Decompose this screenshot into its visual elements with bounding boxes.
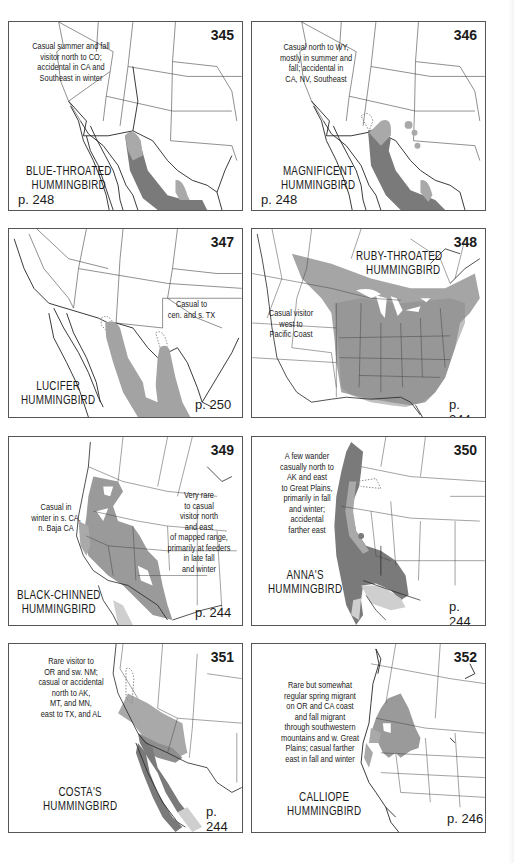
page-reference[interactable]: p. 248 [261, 192, 297, 207]
species-number: 346 [454, 27, 477, 43]
species-number: 348 [454, 234, 477, 250]
range-note: Casual summer and fall visitor north to … [30, 41, 112, 83]
map-panel-ruby-throated: Casual visitor west to Pacific Coast 348… [251, 228, 486, 418]
range-note: Casual north to WY, mostly in summer and… [275, 42, 357, 84]
map-panel-annas: A few wander casually north to AK and ea… [251, 436, 486, 626]
page-edge [508, 0, 514, 863]
species-number: 345 [211, 27, 234, 43]
page-reference[interactable]: p. 250 [195, 397, 231, 412]
range-note-east: Very rare to casual visitor north and ea… [162, 490, 236, 574]
map-panel-blue-throated: Casual summer and fall visitor north to … [8, 21, 243, 211]
page-reference[interactable]: p. 244 [206, 804, 242, 833]
map-panel-calliope: Rare but somewhat regular spring migrant… [251, 643, 486, 833]
species-name: BLUE-THROATED HUMMINGBIRD [26, 164, 112, 192]
species-number: 352 [454, 649, 477, 665]
range-note: Rare but somewhat regular spring migrant… [279, 680, 361, 764]
species-name: RUBY-THROATED HUMMINGBIRD [356, 249, 442, 277]
page-reference[interactable]: p. 244 [449, 397, 485, 418]
page-reference[interactable]: p. 244 [449, 599, 485, 626]
map-panel-lucifer: Casual to cen. and s. TX 347 LUCIFER HUM… [8, 228, 243, 418]
map-panel-black-chinned: Casual in winter in s. CA, n. Baja CA Ve… [8, 436, 243, 626]
range-note: Casual to cen. and s. TX [165, 299, 218, 320]
range-note: Rare visitor to OR and sw. NM; casual or… [38, 656, 104, 719]
range-note: Casual in winter in s. CA, n. Baja CA [27, 502, 84, 534]
species-name: CALLIOPE HUMMINGBIRD [287, 790, 361, 818]
species-number: 351 [211, 649, 234, 665]
map-panel-magnificent: Casual north to WY, mostly in summer and… [251, 21, 486, 211]
species-number: 350 [454, 442, 477, 458]
range-note: A few wander casually north to AK and ea… [274, 451, 340, 535]
species-name: COSTA'S HUMMINGBIRD [43, 785, 117, 813]
page-reference[interactable]: p. 248 [18, 192, 54, 207]
page-reference[interactable]: p. 246 [447, 811, 483, 826]
species-name: BLACK-CHINNED HUMMINGBIRD [17, 588, 101, 616]
species-number: 349 [211, 442, 234, 458]
species-number: 347 [211, 234, 234, 250]
species-name: MAGNIFICENT HUMMINGBIRD [281, 164, 355, 192]
species-name: LUCIFER HUMMINGBIRD [21, 379, 95, 407]
range-note: Casual visitor west to Pacific Coast [266, 308, 315, 340]
map-panel-costas: Rare visitor to OR and sw. NM; casual or… [8, 643, 243, 833]
species-name: ANNA'S HUMMINGBIRD [268, 568, 342, 596]
page-reference[interactable]: p. 244 [195, 605, 231, 620]
